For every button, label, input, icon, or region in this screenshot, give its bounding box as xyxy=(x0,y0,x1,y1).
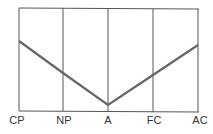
label-cp: CP xyxy=(9,114,24,126)
label-ac: AC xyxy=(192,114,207,126)
bottom-axis xyxy=(19,111,199,112)
label-fc: FC xyxy=(147,114,162,126)
label-np: NP xyxy=(56,114,71,126)
top-border xyxy=(19,8,199,9)
label-a: A xyxy=(104,114,111,126)
